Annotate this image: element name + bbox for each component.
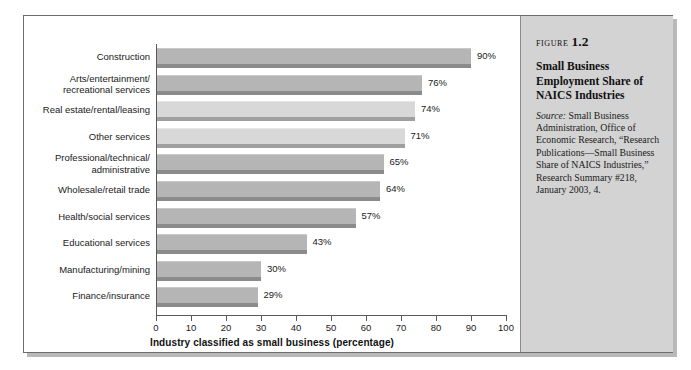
chart-panel: Construction90%Arts/entertainment/recrea…: [24, 16, 520, 352]
bar-shadow: [156, 303, 258, 307]
bar: [156, 181, 380, 201]
figure-number-value: 1.2: [572, 34, 589, 49]
bar-value-label: 57%: [362, 210, 381, 221]
bar-value-label: 43%: [313, 236, 332, 247]
caption-panel: Figure1.2 Small Business Employment Shar…: [520, 16, 673, 352]
x-axis-tick: [331, 316, 332, 321]
x-axis-tick: [366, 316, 367, 321]
bar-row: Professional/technical/administrative65%: [24, 153, 520, 179]
figure-frame: Construction90%Arts/entertainment/recrea…: [23, 15, 673, 353]
bar-shadow: [156, 197, 380, 201]
bar-value-label: 76%: [428, 77, 447, 88]
x-axis-tick-label: 10: [176, 322, 206, 333]
x-axis-tick: [191, 316, 192, 321]
x-axis-tick-label: 40: [281, 322, 311, 333]
bar-body: [156, 261, 261, 277]
x-axis-tick-label: 90: [456, 322, 486, 333]
bar: [156, 261, 261, 281]
bar-body: [156, 101, 415, 117]
bar-category-label: Wholesale/retail trade: [0, 184, 156, 196]
figure-source: Source: Small Business Administration, O…: [536, 110, 660, 197]
bar-chart-plot: Construction90%Arts/entertainment/recrea…: [24, 16, 520, 352]
x-axis-tick: [261, 316, 262, 321]
x-axis-tick: [156, 316, 157, 321]
bar-category-label: Real estate/rental/leasing: [0, 104, 156, 116]
x-axis-title: Industry classified as small business (p…: [24, 337, 520, 348]
bar: [156, 48, 471, 68]
bar-value-label: 90%: [477, 50, 496, 61]
bar-body: [156, 208, 356, 224]
bar-shadow: [156, 250, 307, 254]
figure-number: Figure1.2: [536, 32, 660, 50]
bar-row: Finance/insurance29%: [24, 286, 520, 312]
bar-value-label: 74%: [421, 103, 440, 114]
x-axis-tick-label: 80: [421, 322, 451, 333]
x-axis-tick: [226, 316, 227, 321]
bar-value-label: 65%: [390, 156, 409, 167]
bar-value-label: 71%: [411, 130, 430, 141]
x-axis-tick: [506, 316, 507, 321]
bar: [156, 75, 422, 95]
bar-row: Health/social services57%: [24, 207, 520, 233]
bar-value-label: 64%: [386, 183, 405, 194]
bar-body: [156, 48, 471, 64]
figure-page: Construction90%Arts/entertainment/recrea…: [0, 0, 691, 370]
source-label: Source:: [536, 110, 566, 121]
x-axis-tick-label: 70: [386, 322, 416, 333]
bar-shadow: [156, 117, 415, 121]
bar-body: [156, 287, 258, 303]
bar-body: [156, 75, 422, 91]
x-axis-tick: [436, 316, 437, 321]
bar-body: [156, 128, 405, 144]
bar-category-label: Arts/entertainment/recreational services: [0, 73, 156, 96]
figure-label-word: Figure: [536, 36, 569, 48]
bar-row: Wholesale/retail trade64%: [24, 180, 520, 206]
bar: [156, 287, 258, 307]
x-axis-tick: [401, 316, 402, 321]
bar-row: Manufacturing/mining30%: [24, 260, 520, 286]
bar: [156, 154, 384, 174]
y-axis-line: [156, 44, 157, 316]
bar-value-label: 29%: [264, 289, 283, 300]
bar-body: [156, 181, 380, 197]
bar-category-label: Manufacturing/mining: [0, 264, 156, 276]
bar: [156, 128, 405, 148]
bar-body: [156, 154, 384, 170]
bar-row: Educational services43%: [24, 233, 520, 259]
x-axis-tick: [296, 316, 297, 321]
bar-body: [156, 234, 307, 250]
bar-row: Other services71%: [24, 127, 520, 153]
bar-category-label: Professional/technical/administrative: [0, 152, 156, 175]
bar-shadow: [156, 170, 384, 174]
bar-shadow: [156, 277, 261, 281]
bar-shadow: [156, 224, 356, 228]
x-axis-tick-label: 100: [491, 322, 521, 333]
x-axis-tick-label: 30: [246, 322, 276, 333]
bar-row: Real estate/rental/leasing74%: [24, 100, 520, 126]
bar-category-label: Other services: [0, 131, 156, 143]
bar-category-label: Health/social services: [0, 211, 156, 223]
x-axis-tick-label: 0: [141, 322, 171, 333]
bar-category-label: Finance/insurance: [0, 290, 156, 302]
bar-category-label: Construction: [0, 51, 156, 63]
figure-title: Small Business Employment Share of NAICS…: [536, 59, 660, 103]
x-axis-tick-label: 60: [351, 322, 381, 333]
bar-value-label: 30%: [267, 263, 286, 274]
bar: [156, 101, 415, 121]
bar-row: Arts/entertainment/recreational services…: [24, 74, 520, 100]
bar-shadow: [156, 144, 405, 148]
bar-category-label: Educational services: [0, 237, 156, 249]
bar-shadow: [156, 91, 422, 95]
bar: [156, 208, 356, 228]
x-axis-tick-label: 50: [316, 322, 346, 333]
x-axis-tick: [471, 316, 472, 321]
bar: [156, 234, 307, 254]
bar-shadow: [156, 64, 471, 68]
source-body: Small Business Administration, Office of…: [536, 110, 659, 195]
bar-row: Construction90%: [24, 47, 520, 73]
x-axis-tick-label: 20: [211, 322, 241, 333]
